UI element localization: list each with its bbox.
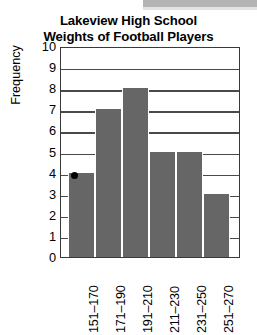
bar [203, 194, 230, 257]
x-tick-label: 171–190 [114, 263, 128, 333]
y-tick-label: 9 [28, 61, 56, 74]
y-tick-label: 5 [28, 146, 56, 159]
x-tick-label: 251–270 [222, 263, 236, 333]
x-tick-label: 211–230 [168, 263, 182, 333]
scan-artifact [143, 0, 257, 7]
x-axis-tick-labels: 151–170171–190191–210211–230231–250251–2… [60, 262, 240, 335]
x-tick-label: 231–250 [195, 263, 209, 333]
bar [68, 173, 95, 257]
y-tick-label: 4 [28, 167, 56, 180]
y-tick-label: 2 [28, 209, 56, 222]
scan-artifact-soft [143, 7, 257, 10]
bar [176, 152, 203, 258]
y-tick-label: 7 [28, 103, 56, 116]
y-axis-tick-labels: 109876543210 [26, 47, 56, 258]
y-tick-label: 8 [28, 82, 56, 95]
histogram-figure: Lakeview High School Weights of Football… [0, 0, 257, 335]
plot-area [60, 47, 240, 258]
y-axis-label: Frequency [9, 25, 23, 125]
point-marker-icon [71, 172, 78, 179]
bars-layer [61, 48, 239, 257]
bar [149, 152, 176, 258]
y-tick-label: 1 [28, 230, 56, 243]
bar [122, 88, 149, 257]
y-tick-label: 3 [28, 188, 56, 201]
x-tick-label: 151–170 [87, 263, 101, 333]
y-tick-label: 10 [28, 40, 56, 53]
bar [95, 109, 122, 257]
chart-title-line-1: Lakeview High School [60, 13, 197, 28]
x-tick-label: 191–210 [141, 263, 155, 333]
y-tick-label: 6 [28, 124, 56, 137]
y-tick-label: 0 [28, 251, 56, 264]
